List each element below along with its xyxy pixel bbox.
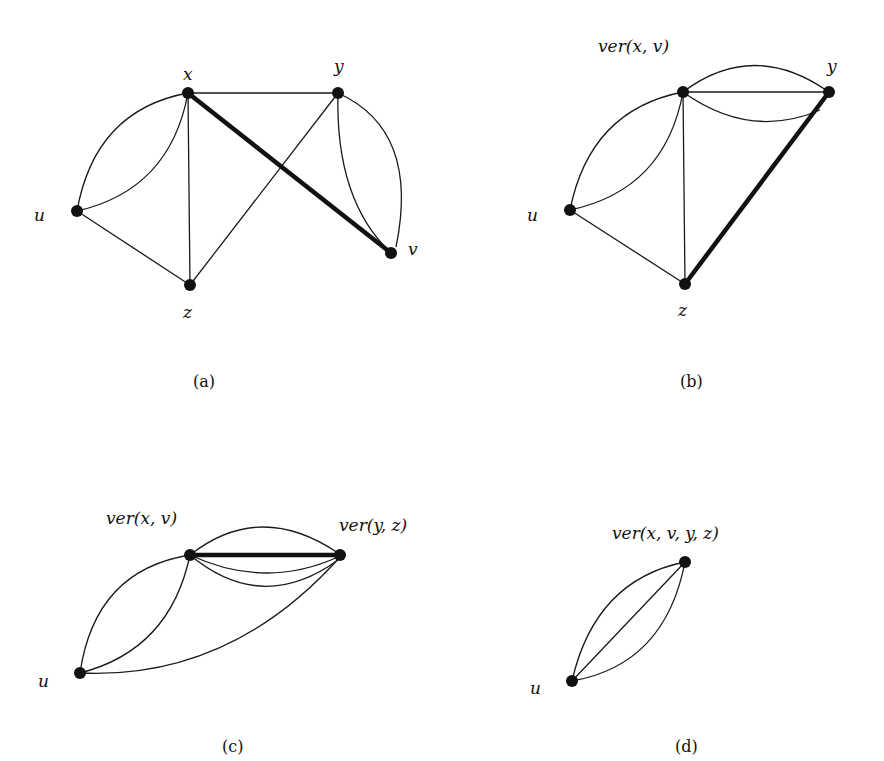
node-y [823, 86, 835, 98]
panel-d: ver(x, v, y, z) u (d) [530, 523, 719, 756]
node-ver-y-z [334, 549, 346, 561]
edge-xv-yz-upper [190, 527, 338, 555]
node-ver-x-v [184, 549, 196, 561]
edge-x-u-inner [77, 93, 188, 211]
panel-a: x y u z v (a) [34, 56, 418, 391]
caption-a: (a) [193, 372, 215, 391]
label-u: u [38, 671, 49, 691]
edge-x-v-contracted [188, 93, 391, 253]
edge-xv-z [683, 92, 685, 284]
edge-y-v-inner [338, 93, 391, 253]
label-ver-x-v: ver(x, v) [598, 36, 669, 56]
label-ver-x-v: ver(x, v) [106, 508, 177, 528]
edge-y-v-outer [338, 93, 401, 247]
label-ver-x-v-y-z: ver(x, v, y, z) [612, 523, 719, 543]
edge-xv-u-outer [570, 92, 683, 210]
node-u [564, 204, 576, 216]
edge-xv-y-lower [683, 92, 820, 122]
edge-z-y [190, 93, 338, 285]
label-y: y [826, 56, 837, 76]
label-y: y [333, 56, 344, 76]
edge-u-z [570, 210, 685, 284]
caption-b: (b) [680, 372, 703, 391]
edge-u-yz [80, 557, 340, 673]
node-u [566, 675, 578, 687]
label-z: z [677, 300, 688, 320]
node-x [182, 87, 194, 99]
label-x: x [183, 64, 193, 84]
node-ver-x-v-y-z [679, 556, 691, 568]
edge-u-xvyz-straight [572, 562, 685, 681]
caption-c: (c) [222, 737, 243, 756]
label-u: u [34, 205, 45, 225]
node-z [679, 278, 691, 290]
edge-xv-u-inner [570, 92, 683, 210]
edge-xv-u-outer [80, 555, 190, 673]
node-ver-x-v [677, 86, 689, 98]
graph-contraction-figure: x y u z v (a) ver(x, v) y u z (b) [0, 0, 884, 761]
node-u [71, 205, 83, 217]
label-z: z [182, 302, 193, 322]
edge-x-z [188, 93, 190, 285]
edge-u-z [77, 211, 190, 285]
edge-xv-u-inner [80, 555, 190, 673]
edge-x-u-outer [77, 93, 188, 211]
node-u [74, 667, 86, 679]
label-u: u [527, 205, 538, 225]
node-v [385, 247, 397, 259]
panel-c: ver(x, v) ver(y, z) u (c) [38, 508, 407, 756]
panel-b: ver(x, v) y u z (b) [527, 36, 837, 391]
label-u: u [530, 678, 541, 698]
label-ver-y-z: ver(y, z) [339, 515, 407, 535]
node-y [332, 87, 344, 99]
edge-xv-y-upper [683, 65, 826, 92]
caption-d: (d) [675, 737, 698, 756]
label-v: v [408, 239, 418, 259]
node-z [184, 279, 196, 291]
